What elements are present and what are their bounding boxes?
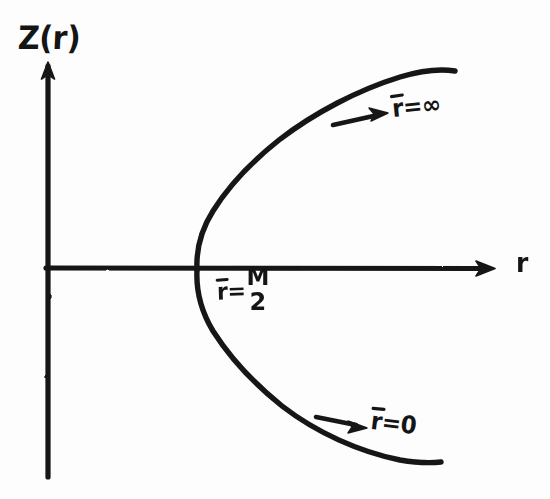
horizontal-axis-label: r bbox=[516, 248, 528, 278]
upper-branch-annotation: r=∞ bbox=[391, 89, 442, 123]
mass-over-two-fraction: M 2 bbox=[247, 266, 270, 313]
throat-annotation: r= M 2 bbox=[217, 274, 269, 321]
horizontal-axis bbox=[46, 261, 495, 276]
lower-branch-annotation: r=0 bbox=[369, 406, 418, 440]
diagram-svg bbox=[0, 0, 550, 499]
r-bar-symbol-throat: r bbox=[217, 277, 228, 305]
fraction-denominator: 2 bbox=[250, 290, 266, 313]
infinity-glyph: ∞ bbox=[420, 90, 442, 119]
r-glyph-throat: r bbox=[217, 278, 228, 305]
fraction-numerator: M bbox=[247, 266, 270, 288]
upper-branch-pointer-arrow bbox=[333, 108, 388, 125]
zero-glyph: 0 bbox=[399, 410, 418, 439]
throat-lhs: r= bbox=[217, 276, 246, 305]
vertical-axis-label: Z(r) bbox=[17, 19, 81, 57]
equals-glyph-throat: = bbox=[227, 277, 246, 304]
figure-canvas: Z(r) r r=∞ r=0 r= M 2 bbox=[0, 0, 550, 499]
